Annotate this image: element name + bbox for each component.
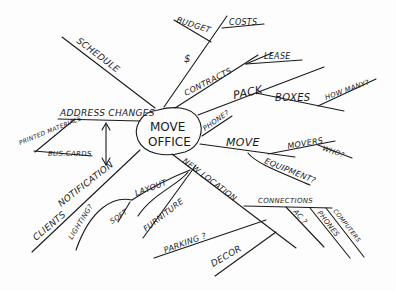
branch-new-location: NEW LOCATION CONNECTIONS AC ? PHONES COM… bbox=[138, 154, 364, 276]
label-computers: COMPUTERS bbox=[332, 207, 362, 243]
branch-move: MOVE MOVERS WHO? EQUIPMENT? bbox=[200, 136, 352, 186]
label-clients: CLIENTS bbox=[31, 209, 68, 242]
branch-phone: PHONE? bbox=[202, 109, 232, 136]
label-who: WHO? bbox=[321, 144, 345, 159]
center-label-line1: MOVE bbox=[150, 120, 185, 134]
branch-address-changes: ADDRESS CHANGES PRINTED MATERIALS BUS.CA… bbox=[18, 108, 155, 165]
label-parking: PARKING ? bbox=[163, 231, 209, 255]
label-printed-materials: PRINTED MATERIALS bbox=[18, 114, 82, 145]
branch-schedule: SCHEDULE bbox=[62, 36, 155, 108]
label-furniture: FURNITURE bbox=[142, 196, 186, 233]
center-label-line2: OFFICE bbox=[148, 135, 191, 149]
label-move: MOVE bbox=[226, 136, 260, 149]
label-contracts: CONTRACTS bbox=[183, 66, 233, 98]
label-lighting: LIGHTING? bbox=[67, 203, 95, 241]
label-movers: MOVERS bbox=[287, 136, 324, 151]
label-soft: SOFT bbox=[109, 208, 130, 226]
label-pack: PACK bbox=[232, 83, 264, 102]
label-connections: CONNECTIONS bbox=[258, 197, 313, 205]
label-schedule: SCHEDULE bbox=[75, 36, 122, 75]
label-equipment: EQUIPMENT? bbox=[263, 157, 317, 186]
label-how-many: HOW MANY? bbox=[324, 78, 371, 101]
label-boxes: BOXES bbox=[275, 92, 311, 103]
label-budget-symbol: $ bbox=[184, 53, 191, 64]
mind-map-canvas: MOVE OFFICE SCHEDULE BUDGET $ COSTS CONT… bbox=[0, 0, 396, 291]
label-costs: COSTS bbox=[229, 18, 257, 27]
label-layout: LAYOUT bbox=[134, 178, 169, 198]
label-bus-cards: BUS.CARDS bbox=[48, 150, 92, 158]
label-new-location: NEW LOCATION bbox=[181, 156, 239, 203]
mind-map: MOVE OFFICE SCHEDULE BUDGET $ COSTS CONT… bbox=[0, 0, 396, 291]
label-lease: LEASE bbox=[264, 52, 291, 61]
branch-notification: NOTIFICATION CLIENTS bbox=[31, 150, 140, 252]
label-ac: AC ? bbox=[291, 207, 309, 226]
label-decor: DECOR bbox=[209, 243, 243, 269]
